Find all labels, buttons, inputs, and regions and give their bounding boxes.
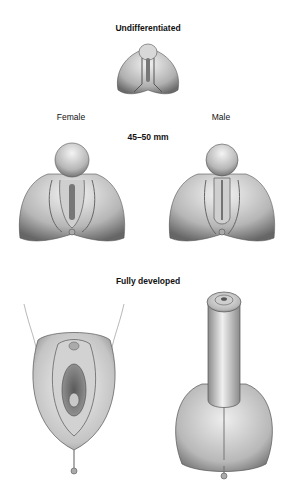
panel-label-female: Female [57, 112, 85, 122]
stage-title-intermediate: 45–50 mm [127, 132, 168, 142]
stage-title-undifferentiated: Undifferentiated [115, 23, 180, 33]
illustration-male-intermediate [166, 140, 278, 252]
illustration-female-intermediate [16, 140, 128, 252]
panel-label-male: Male [212, 112, 230, 122]
illustration-male-developed [168, 284, 280, 480]
illustration-undifferentiated [112, 38, 184, 100]
illustration-female-developed [18, 300, 130, 480]
